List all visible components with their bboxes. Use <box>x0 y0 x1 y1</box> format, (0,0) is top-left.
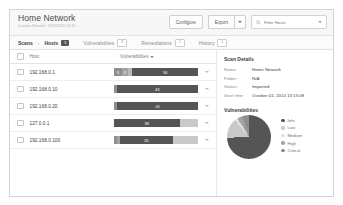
table-body: 192.168.0.13230192.168.0.1043192.168.0.2… <box>10 64 216 149</box>
table-row[interactable]: 192.168.0.13230 <box>10 64 216 81</box>
row-chevron-down-icon[interactable] <box>205 88 209 90</box>
scan-detail-row: Start time:October 01, 2014 13:15:08 <box>224 93 327 98</box>
tab-vulnerabilities[interactable]: Vulnerabilities 8 <box>83 39 127 47</box>
row-checkbox[interactable] <box>17 137 24 144</box>
severity-segment-critical: 3 <box>114 68 122 76</box>
scan-detail-row: Status:Imported <box>224 84 327 89</box>
severity-bar: 38 <box>114 119 198 127</box>
chevron-down-icon <box>150 56 154 58</box>
scan-detail-value: Imported <box>252 84 269 89</box>
tab-history[interactable]: History 1 <box>199 39 228 47</box>
configure-button[interactable]: Configure <box>169 15 203 29</box>
scan-detail-row: Folder:N/A <box>224 76 327 81</box>
scan-results-window: Home Network Current Results: 10/1/2014 … <box>9 9 334 197</box>
row-checkbox[interactable] <box>17 69 24 76</box>
breadcrumb-scans[interactable]: Scans <box>18 40 33 46</box>
severity-segment-info: 30 <box>132 68 198 76</box>
column-header-host: Host <box>30 54 39 59</box>
row-checkbox[interactable] <box>17 86 24 93</box>
scan-detail-value: October 01, 2014 13:15:08 <box>252 93 304 98</box>
row-chevron-down-icon[interactable] <box>205 105 209 107</box>
tab-vulnerabilities-badge: 8 <box>117 39 127 47</box>
row-chevron-down-icon[interactable] <box>205 71 209 73</box>
severity-bar: 41 <box>114 102 198 110</box>
chart-legend: InfoLowMediumHighCritical <box>281 118 302 156</box>
legend-item[interactable]: Info <box>281 118 302 123</box>
export-dropdown-button[interactable] <box>234 15 246 29</box>
page-subtitle: Current Results: 10/1/2014 13:15 <box>18 24 76 28</box>
scan-detail-key: Start time: <box>224 93 252 98</box>
vulnerabilities-chart: InfoLowMediumHighCritical <box>224 115 327 159</box>
page-header: Home Network Current Results: 10/1/2014 … <box>10 10 333 36</box>
export-split-button[interactable]: Export <box>208 15 246 29</box>
header-toolbar: Configure Export <box>169 15 327 29</box>
table-row[interactable]: 127.0.0.138 <box>10 115 216 132</box>
legend-label: Medium <box>288 133 303 138</box>
row-checkbox[interactable] <box>17 120 24 127</box>
scan-detail-value: Home Network <box>252 67 281 72</box>
severity-segment-info: 26 <box>120 136 173 144</box>
legend-item[interactable]: High <box>281 141 302 146</box>
table-row[interactable]: 192.168.0.2041 <box>10 98 216 115</box>
hosts-table: Host Vulnerabilities 192.168.0.13230192.… <box>10 50 217 197</box>
legend-item[interactable]: Critical <box>281 148 302 153</box>
row-checkbox[interactable] <box>17 103 24 110</box>
scan-details-panel: Scan Details Name:Home NetworkFolder:N/A… <box>217 50 333 197</box>
severity-segment-info: 41 <box>117 102 198 110</box>
vulnerabilities-chart-title: Vulnerabilities <box>224 107 327 113</box>
legend-swatch-icon <box>281 134 285 138</box>
severity-segment-info: 38 <box>114 119 180 127</box>
row-chevron-down-icon[interactable] <box>205 122 209 124</box>
legend-item[interactable]: Medium <box>281 133 302 138</box>
severity-segment-low <box>180 119 198 127</box>
search-icon <box>256 20 261 25</box>
legend-swatch-icon <box>281 149 285 153</box>
severity-bar: 3230 <box>114 68 198 76</box>
tab-history-badge: 1 <box>217 39 227 47</box>
host-address[interactable]: 192.168.0.10 <box>30 87 58 92</box>
tab-hosts[interactable]: Hosts <box>44 40 58 46</box>
scan-details-list: Name:Home NetworkFolder:N/AStatus:Import… <box>224 67 327 98</box>
export-button[interactable]: Export <box>208 15 234 29</box>
table-row[interactable]: 192.168.0.10026 <box>10 132 216 149</box>
search-dropdown-icon[interactable] <box>318 21 322 23</box>
scan-detail-key: Folder: <box>224 76 252 81</box>
scan-detail-value: N/A <box>252 76 259 81</box>
column-header-vulnerabilities-label: Vulnerabilities <box>120 54 148 59</box>
scan-detail-key: Name: <box>224 67 252 72</box>
legend-swatch-icon <box>281 126 285 130</box>
row-chevron-down-icon[interactable] <box>205 139 209 141</box>
tab-history-label: History <box>199 40 215 46</box>
page-title: Home Network <box>18 13 75 23</box>
host-address[interactable]: 192.168.0.100 <box>30 138 61 143</box>
legend-item[interactable]: Low <box>281 125 302 130</box>
tab-remediations[interactable]: Remediations 2 <box>141 39 185 47</box>
tab-vulnerabilities-label: Vulnerabilities <box>83 40 114 46</box>
severity-segment-low <box>173 136 198 144</box>
legend-label: Low <box>288 125 296 130</box>
tab-remediations-badge: 2 <box>175 39 185 47</box>
select-all-checkbox[interactable] <box>17 53 24 60</box>
column-header-vulnerabilities[interactable]: Vulnerabilities <box>120 54 154 59</box>
legend-label: Critical <box>288 148 301 153</box>
host-address[interactable]: 127.0.0.1 <box>30 121 50 126</box>
legend-label: Info <box>288 118 295 123</box>
vulnerabilities-pie-chart[interactable] <box>227 115 271 159</box>
breadcrumb: Scans › Hosts 5 <box>18 40 69 46</box>
severity-segment-high: 2 <box>122 68 129 76</box>
scan-details-heading: Scan Details <box>224 56 327 62</box>
legend-swatch-icon <box>281 119 285 123</box>
chevron-down-icon <box>238 21 242 23</box>
content-area: Host Vulnerabilities 192.168.0.13230192.… <box>10 50 333 197</box>
search-box[interactable] <box>251 15 327 29</box>
severity-bar: 26 <box>114 136 198 144</box>
host-address[interactable]: 192.168.0.20 <box>30 104 58 109</box>
tab-bar: Scans › Hosts 5 Vulnerabilities 8 Remedi… <box>10 36 333 50</box>
scan-detail-row: Name:Home Network <box>224 67 327 72</box>
table-row[interactable]: 192.168.0.1043 <box>10 81 216 98</box>
hosts-count-badge: 5 <box>61 40 69 46</box>
tab-remediations-label: Remediations <box>141 40 172 46</box>
host-address[interactable]: 192.168.0.1 <box>30 70 55 75</box>
search-input[interactable] <box>264 20 310 25</box>
severity-bar: 43 <box>114 85 198 93</box>
